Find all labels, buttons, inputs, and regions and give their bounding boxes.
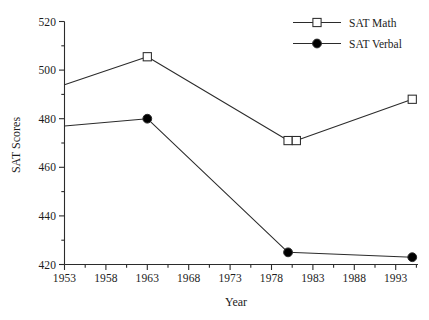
x-tick-label: 1988 [343, 272, 366, 284]
legend-label-1: SAT Math [349, 17, 396, 29]
y-tick-label: 420 [24, 259, 56, 271]
y-tick-label: 520 [24, 16, 56, 28]
data-point-marker-open-square [292, 136, 300, 144]
x-tick-label: 1973 [218, 272, 241, 284]
legend-marker-open-square [313, 18, 321, 26]
data-point-marker-open-square [143, 53, 151, 61]
y-tick-label: 440 [24, 210, 56, 222]
data-point-marker-filled-circle [408, 253, 417, 262]
data-point-marker-open-square [284, 136, 292, 144]
sat-scores-line-chart: 420440460480500520 195319581963196819731… [0, 0, 429, 320]
data-point-marker-open-square [408, 95, 416, 103]
x-tick-label: 1963 [136, 272, 159, 284]
y-tick-label: 500 [24, 64, 56, 76]
x-tick-label: 1993 [384, 272, 407, 284]
x-tick-label: 1968 [177, 272, 200, 284]
legend-label-2: SAT Verbal [349, 38, 402, 50]
x-axis-title: Year [225, 295, 247, 310]
y-axis-title: SAT Scores [9, 105, 24, 185]
legend-marker-filled-circle [313, 39, 322, 48]
x-tick-label: 1978 [260, 272, 283, 284]
x-tick-label: 1953 [53, 272, 76, 284]
x-tick-label: 1958 [94, 272, 117, 284]
series-line-1 [65, 57, 413, 141]
x-tick-label: 1983 [301, 272, 324, 284]
y-tick-label: 460 [24, 161, 56, 173]
data-point-marker-filled-circle [143, 114, 152, 123]
data-point-marker-filled-circle [284, 248, 293, 257]
series-line-2 [65, 119, 413, 258]
y-tick-label: 480 [24, 113, 56, 125]
